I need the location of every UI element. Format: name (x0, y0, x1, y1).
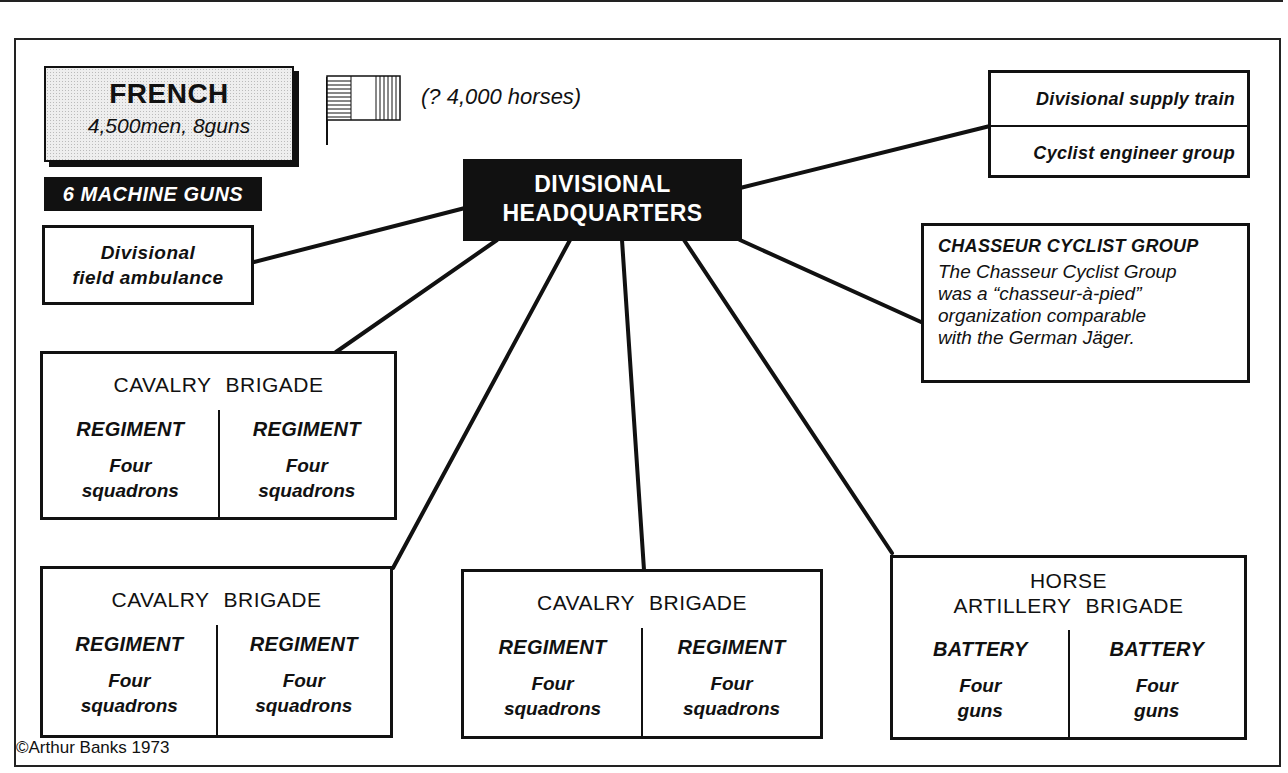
battery-column: BATTERY Fourguns (1068, 630, 1245, 737)
cavalry-brigade-2-node: CAVALRY BRIGADE REGIMENT Foursquadrons R… (40, 566, 393, 738)
unit-type: guns (1070, 698, 1245, 723)
unit-name: REGIMENT (643, 636, 820, 659)
brigade-title-line-1: HORSE (893, 568, 1244, 593)
top-frame-edge (0, 0, 1283, 2)
hq-line-2: HEADQUARTERS (463, 199, 742, 228)
hq-line-1: DIVISIONAL (463, 170, 742, 199)
unit-type: squadrons (43, 693, 216, 718)
unit-count: Four (643, 671, 820, 696)
brigade-title-line-2: ARTILLERY BRIGADE (893, 593, 1244, 618)
french-strength: 4,500men, 8guns (46, 114, 292, 138)
unit-name: REGIMENT (464, 636, 641, 659)
ambulance-line-1: Divisional (45, 240, 251, 265)
unit-type: guns (893, 698, 1068, 723)
unit-type: squadrons (220, 478, 395, 503)
unit-name: BATTERY (1070, 638, 1245, 661)
unit-name: BATTERY (893, 638, 1068, 661)
unit-name: REGIMENT (220, 418, 395, 441)
french-heading: FRENCH (46, 78, 292, 110)
unit-name: REGIMENT (43, 418, 218, 441)
unit-type: squadrons (464, 696, 641, 721)
regiment-column: REGIMENT Foursquadrons (218, 410, 395, 517)
unit-count: Four (43, 453, 218, 478)
support-units-node: Divisional supply train Cyclist engineer… (988, 70, 1250, 178)
regiment-column: REGIMENT Foursquadrons (464, 628, 641, 736)
horse-artillery-brigade-node: HORSE ARTILLERY BRIGADE BATTERY Fourguns… (890, 555, 1247, 740)
brigade-title: HORSE ARTILLERY BRIGADE (893, 568, 1244, 618)
horses-caption: (? 4,000 horses) (421, 84, 581, 110)
divisional-headquarters-node: DIVISIONAL HEADQUARTERS (463, 159, 742, 241)
brigade-title: CAVALRY BRIGADE (43, 588, 390, 612)
copyright-notice: ©Arthur Banks 1973 (16, 738, 169, 758)
chasseur-description: The Chasseur Cyclist Group was a “chasse… (938, 261, 1247, 349)
regiment-column: REGIMENT Foursquadrons (43, 625, 216, 735)
regiment-column: REGIMENT Foursquadrons (43, 410, 218, 517)
unit-count: Four (43, 668, 216, 693)
unit-name: REGIMENT (43, 633, 216, 656)
regiment-column: REGIMENT Foursquadrons (216, 625, 391, 735)
machine-guns-label: 6 MACHINE GUNS (44, 177, 262, 211)
brigade-title: CAVALRY BRIGADE (464, 591, 820, 615)
unit-count: Four (218, 668, 391, 693)
field-ambulance-node: Divisional field ambulance (42, 225, 254, 305)
cavalry-brigade-1-node: CAVALRY BRIGADE REGIMENT Foursquadrons R… (40, 351, 397, 520)
cyclist-engineer-label: Cyclist engineer group (991, 125, 1247, 179)
unit-name: REGIMENT (218, 633, 391, 656)
brigade-title: CAVALRY BRIGADE (43, 373, 394, 397)
chasseur-line-2: was a “chasseur-à-pied” (938, 283, 1247, 305)
chasseur-cyclist-group-node: CHASSEUR CYCLIST GROUP The Chasseur Cycl… (921, 223, 1250, 383)
supply-train-label: Divisional supply train (991, 73, 1247, 125)
french-tricolour-flag-icon (326, 75, 402, 145)
chasseur-heading: CHASSEUR CYCLIST GROUP (938, 236, 1247, 257)
regiment-column: REGIMENT Foursquadrons (641, 628, 820, 736)
chasseur-line-1: The Chasseur Cyclist Group (938, 261, 1247, 283)
unit-type: squadrons (643, 696, 820, 721)
chasseur-line-4: with the German Jäger. (938, 327, 1247, 349)
unit-count: Four (1070, 673, 1245, 698)
unit-count: Four (464, 671, 641, 696)
french-title-box: FRENCH 4,500men, 8guns (44, 66, 294, 162)
chasseur-line-3: organization comparable (938, 305, 1247, 327)
unit-count: Four (220, 453, 395, 478)
unit-count: Four (893, 673, 1068, 698)
cavalry-brigade-3-node: CAVALRY BRIGADE REGIMENT Foursquadrons R… (461, 569, 823, 739)
unit-type: squadrons (43, 478, 218, 503)
unit-type: squadrons (218, 693, 391, 718)
ambulance-line-2: field ambulance (45, 265, 251, 290)
battery-column: BATTERY Fourguns (893, 630, 1068, 737)
